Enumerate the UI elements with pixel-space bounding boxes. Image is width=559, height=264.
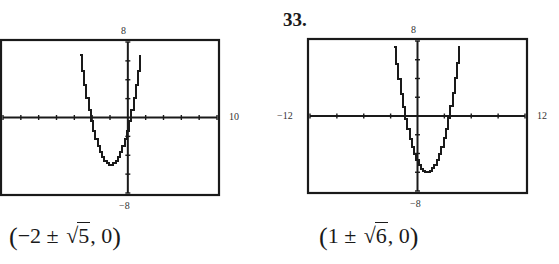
answer-prefix: 1 ± — [328, 223, 362, 248]
ymin-label: −8 — [119, 201, 130, 211]
ymax-label: 8 — [121, 26, 126, 36]
calculator-window — [307, 38, 528, 194]
plot-group — [1, 40, 219, 195]
radicand: 6 — [375, 222, 388, 248]
answer-suffix: , 0 — [388, 223, 410, 248]
parabola-curve — [80, 55, 140, 165]
plot-group — [308, 39, 527, 193]
parabola-plot — [0, 39, 220, 196]
problem-number: 33. — [283, 10, 307, 29]
xmax-label: 12 — [537, 111, 547, 121]
ymax-label: 8 — [411, 25, 416, 35]
answer-label: (−2 ± √5, 0) — [9, 224, 121, 250]
answer-prefix: −2 ± — [18, 223, 64, 248]
answer-suffix: , 0 — [90, 223, 112, 248]
xmax-label: 10 — [229, 112, 239, 122]
open-paren: ( — [9, 222, 18, 251]
answer-label: (1 ± √6, 0) — [319, 224, 419, 250]
parabola-curve — [394, 46, 459, 172]
open-paren: ( — [319, 222, 328, 251]
close-paren: ) — [410, 222, 419, 251]
xmin-label: −12 — [277, 111, 293, 121]
radicand: 5 — [77, 222, 90, 248]
close-paren: ) — [112, 222, 121, 251]
sqrt-icon: √5 — [64, 225, 90, 247]
calculator-window — [0, 39, 220, 196]
ymin-label: −8 — [410, 199, 421, 209]
sqrt-icon: √6 — [362, 225, 388, 247]
parabola-plot — [307, 38, 528, 194]
